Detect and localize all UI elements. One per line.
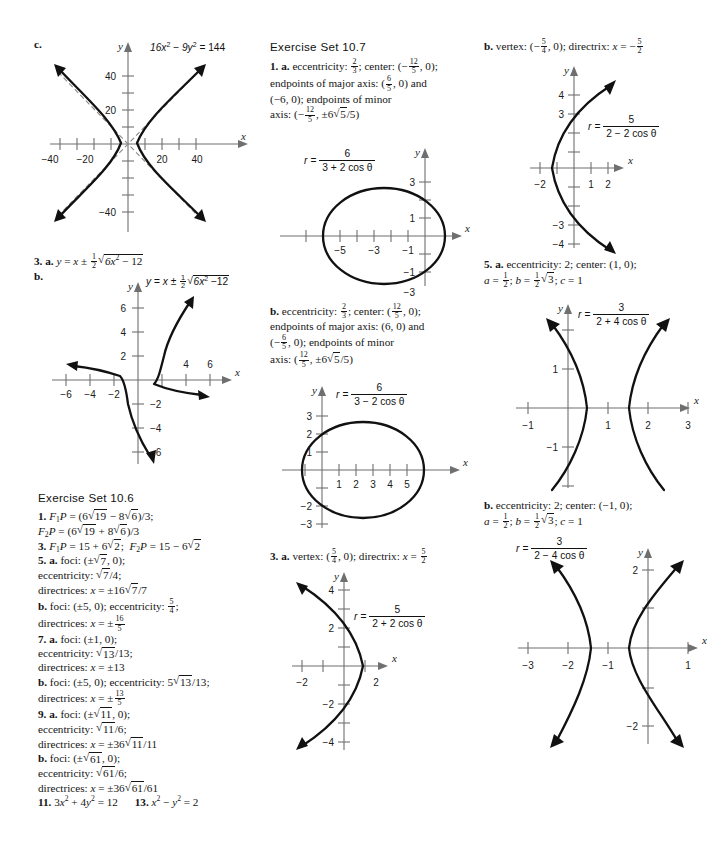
- figure-b-xtick-4: 6: [207, 359, 213, 370]
- figure-3b-ytick-0: 4: [558, 90, 564, 101]
- figure-c-x-axis-label: x: [240, 130, 246, 142]
- figure-3a-ytick-3: −4: [323, 737, 335, 748]
- figure-c-label: c.: [34, 38, 42, 50]
- figure-3b-ytick-2: −3: [553, 220, 565, 231]
- right-column: b. vertex: (−54, 0); directrix: x = −52: [482, 0, 714, 850]
- figure-5a-xtick-3: 3: [685, 420, 691, 431]
- figure-3a-y-axis-label: y: [333, 570, 339, 582]
- figure-b-svg: x y −6 −4 −2 4 6 6 4 2 −2 −4 −6: [42, 276, 257, 471]
- figure-1b-equation: r= 6 3 − 2 cos θ: [336, 382, 407, 408]
- figure-1a-equation: r= 6 3 + 2 cos θ: [304, 148, 375, 174]
- answer-mid-1b: b. eccentricity: 23; center: (125, 0); e…: [270, 303, 474, 369]
- figure-3b-x-axis-label: x: [627, 154, 633, 166]
- figure-b-ytick-1: 4: [120, 327, 126, 338]
- figure-1b-xtick-3: 4: [387, 479, 393, 490]
- figure-b-ytick-3: −2: [150, 399, 162, 410]
- figure-b-xtick-0: −6: [60, 389, 72, 400]
- figure-1b-ytick-4: −3: [301, 519, 313, 530]
- figure-1b-y-axis-label: y: [311, 384, 317, 396]
- left-column: c.: [34, 0, 259, 850]
- figure-5b-xtick-1: −2: [562, 660, 574, 671]
- answer-mid-3a-number: 3.: [270, 550, 278, 562]
- figure-5b-x-axis-label: x: [701, 634, 707, 646]
- figure-b-xtick-1: −4: [84, 389, 96, 400]
- figure-1b-xtick-0: 1: [336, 479, 342, 490]
- figure-c-y-axis-label: y: [117, 40, 123, 52]
- answer-7: 7. a. foci: (±1, 0); eccentricity: 13/13…: [38, 633, 260, 707]
- figure-3b-equation-denominator: 2 − 2 cos θ: [603, 127, 659, 139]
- figure-5b-hyperbola: x y −3 −2 −1 1 2 −2 r= 3 2 − 4 cos θ: [482, 530, 714, 748]
- figure-5a-xtick-1: 1: [605, 420, 611, 431]
- answer-left-3a: 3. a. y = x ± 126x2 − 12: [34, 253, 259, 270]
- figure-3a-x-axis-label: x: [391, 652, 397, 664]
- figure-1b-ytick-3: −2: [301, 501, 313, 512]
- figure-3b-parabola: x y −2 1 2 4 3 −3 −4 r= 5 2 − 2 cos θ: [482, 56, 714, 254]
- figure-3a-ytick-1: 2: [328, 623, 334, 634]
- answer-mid-1a-part: a.: [281, 60, 289, 72]
- figure-3a-ytick-2: −2: [323, 699, 335, 710]
- figure-c-hyperbola: x y −40 −20 20 40 40 20 −40 16x2 − 9y2 =…: [42, 36, 257, 241]
- figure-c-svg: x y −40 −20 20 40 40 20 −40: [42, 36, 257, 241]
- figure-3b-svg: x y −2 1 2 4 3 −3 −4: [482, 56, 714, 254]
- answer-5: 5. a. foci: (±7, 0); eccentricity: 7/4; …: [38, 553, 260, 632]
- answer-mid-3a-part: a.: [281, 550, 289, 562]
- figure-5b-svg: x y −3 −2 −1 1 2 −2: [482, 530, 714, 748]
- exercise-set-10-6-answers: 1. F1P = (619 − 86)/3; F2P = (619 + 86)/…: [38, 509, 260, 809]
- figure-b-equation: y = x ± 126x2 −12: [146, 274, 229, 290]
- figure-1b-ellipse: x y 1 2 3 4 5 3 2 1 −2 −3 r= 6 3 − 2 cos…: [268, 378, 473, 533]
- exercise-set-10-6-heading: Exercise Set 10.6: [38, 491, 134, 504]
- figure-5a-equation-numerator: 3: [593, 302, 649, 315]
- exercise-set-10-7-heading: Exercise Set 10.7: [270, 40, 366, 53]
- figure-3a-parabola: x y −2 2 4 2 −2 −4 r= 5 2 + 2 cos θ: [268, 568, 473, 753]
- answer-11-13: 11. 3x2 + 4y2 = 12 13. x2 − y2 = 2: [38, 796, 260, 810]
- figure-b-ytick-4: −4: [150, 423, 162, 434]
- answer-mid-1b-part: b.: [270, 305, 279, 317]
- figure-c-xtick-1: −20: [77, 154, 94, 165]
- figure-1b-xtick-2: 3: [370, 479, 376, 490]
- figure-3a-equation-denominator: 2 + 2 cos θ: [369, 617, 425, 629]
- figure-5a-equation-denominator: 2 + 4 cos θ: [593, 315, 649, 327]
- figure-5a-equation: r= 3 2 + 4 cos θ: [578, 302, 649, 328]
- answer-1: 1. F1P = (619 − 86)/3; F2P = (619 + 86)/…: [38, 509, 260, 539]
- figure-1b-ytick-2: 1: [306, 447, 312, 458]
- answer-3: 3. F1P = 15 + 62; F2P = 15 − 62: [38, 539, 260, 554]
- figure-b-x-axis-label: x: [234, 366, 240, 378]
- figure-5b-y-axis-label: y: [637, 546, 643, 558]
- figure-3b-ytick-3: −4: [553, 239, 565, 250]
- figure-1b-ytick-1: 2: [306, 429, 312, 440]
- figure-b-ytick-5: −6: [150, 447, 162, 458]
- answer-9: 9. a. foci: (±11, 0); eccentricity: 11/6…: [38, 707, 260, 796]
- figure-b-xtick-2: −2: [108, 389, 120, 400]
- figure-b-xtick-3: 4: [183, 359, 189, 370]
- figure-1a-ytick-3: −3: [404, 287, 416, 298]
- figure-1a-y-axis-label: y: [414, 146, 420, 158]
- figure-3b-xtick-0: −2: [534, 179, 546, 190]
- figure-3a-equation-numerator: 5: [369, 604, 425, 617]
- answer-right-5b-part: b.: [484, 499, 493, 511]
- answer-right-5b: b. eccentricity: 2; center: (−1, 0); a =…: [484, 499, 714, 530]
- figure-c-ytick-1: 20: [105, 105, 117, 116]
- middle-column: Exercise Set 10.7 1. a. eccentricity: 23…: [268, 0, 473, 850]
- figure-1a-xtick-2: −1: [402, 245, 414, 256]
- figure-5b-ytick-0: 2: [632, 565, 638, 576]
- figure-1a-x-axis-label: x: [464, 222, 470, 234]
- figure-5b-xtick-3: 1: [685, 660, 691, 671]
- figure-1b-xtick-4: 5: [404, 479, 410, 490]
- figure-c-ytick-0: 40: [105, 71, 117, 82]
- figure-b-ytick-0: 6: [120, 303, 126, 314]
- figure-5a-hyperbola: x y −1 1 2 3 1 −1 r= 3 2 + 4 cos θ: [482, 292, 714, 490]
- figure-1a-equation-numerator: 6: [319, 148, 375, 161]
- figure-1a-equation-denominator: 3 + 2 cos θ: [319, 161, 375, 173]
- figure-1a-ytick-1: 1: [409, 213, 415, 224]
- figure-3b-ytick-1: 3: [558, 109, 564, 120]
- answer-right-5a-number: 5.: [484, 258, 492, 270]
- figure-1a-xtick-1: −3: [368, 245, 380, 256]
- figure-1a-ytick-2: −1: [404, 267, 416, 278]
- figure-c-equation: 16x2 − 9y2 = 144: [150, 42, 225, 53]
- figure-5b-equation-denominator: 2 − 4 cos θ: [531, 549, 587, 561]
- answer-mid-1a: 1. a. eccentricity: 23; center: (−125, 0…: [270, 58, 474, 124]
- figure-b-rotated-hyperbola: x y −6 −4 −2 4 6 6 4 2 −2 −4 −6 y = x ± …: [42, 276, 257, 471]
- answer-right-5a-part: a.: [495, 258, 503, 270]
- figure-5b-equation-numerator: 3: [531, 536, 587, 549]
- figure-5b-ytick-1: −2: [627, 721, 639, 732]
